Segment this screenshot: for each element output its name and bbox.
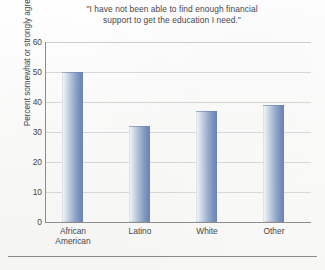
- bar-chart-figure: "I have not been able to find enough fin…: [0, 0, 325, 270]
- bar-top-edge: [263, 105, 284, 106]
- y-tick-label-60: 60: [33, 37, 42, 47]
- y-tick-label-20: 20: [33, 157, 42, 167]
- x-tick-white: White: [169, 226, 245, 236]
- bar-top-edge: [196, 111, 217, 112]
- bar-white[interactable]: [196, 111, 217, 222]
- gridline-40: 40: [46, 102, 311, 103]
- x-tick-line-1: White: [169, 226, 245, 236]
- y-tick-label-50: 50: [33, 67, 42, 77]
- y-tick-label-10: 10: [33, 187, 42, 197]
- y-tick-label-30: 30: [33, 127, 42, 137]
- chart-title-line-2: support to get the education I need.": [52, 15, 292, 26]
- y-tick-label-40: 40: [33, 97, 42, 107]
- bar-other[interactable]: [263, 105, 284, 222]
- gridline-50: 50: [46, 72, 311, 73]
- bar-african-american[interactable]: [62, 72, 83, 222]
- x-tick-line-1: African: [35, 226, 111, 236]
- x-tick-line-1: Other: [236, 226, 312, 236]
- footer-rule: [8, 256, 317, 257]
- x-tick-latino: Latino: [102, 226, 178, 236]
- y-axis-title: Percent somewhat or strongly agree: [23, 0, 32, 148]
- chart-title-line-1: "I have not been able to find enough fin…: [52, 4, 292, 15]
- bar-latino[interactable]: [129, 126, 150, 222]
- x-tick-line-1: Latino: [102, 226, 178, 236]
- bar-top-edge: [129, 126, 150, 127]
- x-tick-other: Other: [236, 226, 312, 236]
- bar-top-edge: [62, 72, 83, 73]
- plot-area: 60 50 40 30 20 10 0: [45, 42, 311, 222]
- x-tick-african-american: African American: [35, 226, 111, 246]
- gridline-0: 0: [46, 222, 311, 223]
- x-tick-line-2: American: [35, 236, 111, 246]
- chart-title: "I have not been able to find enough fin…: [52, 4, 292, 25]
- gridline-60: 60: [46, 42, 311, 43]
